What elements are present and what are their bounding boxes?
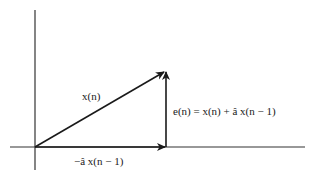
vector-diagram: x(n) −â x(n − 1) e(n) = x(n) + â x(n − 1… — [0, 0, 315, 176]
vector-x-n — [35, 72, 164, 147]
label-horizontal-vector: −â x(n − 1) — [74, 155, 124, 168]
label-error-vector: e(n) = x(n) + â x(n − 1) — [173, 105, 276, 118]
label-x-n: x(n) — [82, 90, 101, 103]
